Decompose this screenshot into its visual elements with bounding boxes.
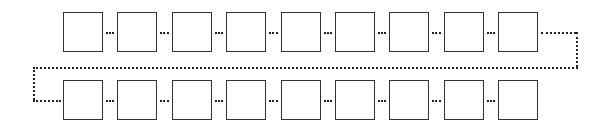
dotted-connector (106, 32, 114, 34)
chain-box (281, 80, 321, 120)
dotted-connector (378, 100, 386, 102)
dotted-connector (269, 100, 278, 102)
dotted-connector (215, 100, 223, 102)
chain-box (335, 12, 375, 52)
chain-box (335, 80, 375, 120)
chain-box (444, 12, 484, 52)
dotted-connector (324, 32, 332, 34)
wrap-connector-top (541, 32, 576, 34)
dotted-connector (106, 100, 114, 102)
dotted-connector (432, 32, 441, 34)
chain-box (117, 80, 157, 120)
dotted-connector (215, 32, 223, 34)
dotted-connector (269, 32, 278, 34)
chain-box (63, 12, 103, 52)
wrap-connector-left (33, 67, 35, 100)
chain-box (498, 80, 538, 120)
wrap-connector-middle (33, 67, 578, 69)
dotted-connector (324, 100, 332, 102)
dotted-connector (160, 32, 169, 34)
chain-box (389, 12, 429, 52)
dotted-connector (487, 100, 495, 102)
chain-box (389, 80, 429, 120)
chain-box (172, 80, 212, 120)
chain-box (444, 80, 484, 120)
chain-box (226, 80, 266, 120)
chain-box (226, 12, 266, 52)
wrap-connector-bottom (33, 100, 61, 102)
chain-box (498, 12, 538, 52)
dotted-connector (160, 100, 169, 102)
chain-box (172, 12, 212, 52)
dotted-connector (487, 32, 495, 34)
chain-box (63, 80, 103, 120)
chain-box (281, 12, 321, 52)
chain-box (117, 12, 157, 52)
dotted-connector (432, 100, 441, 102)
dotted-connector (378, 32, 386, 34)
wrap-connector-right (576, 32, 578, 67)
